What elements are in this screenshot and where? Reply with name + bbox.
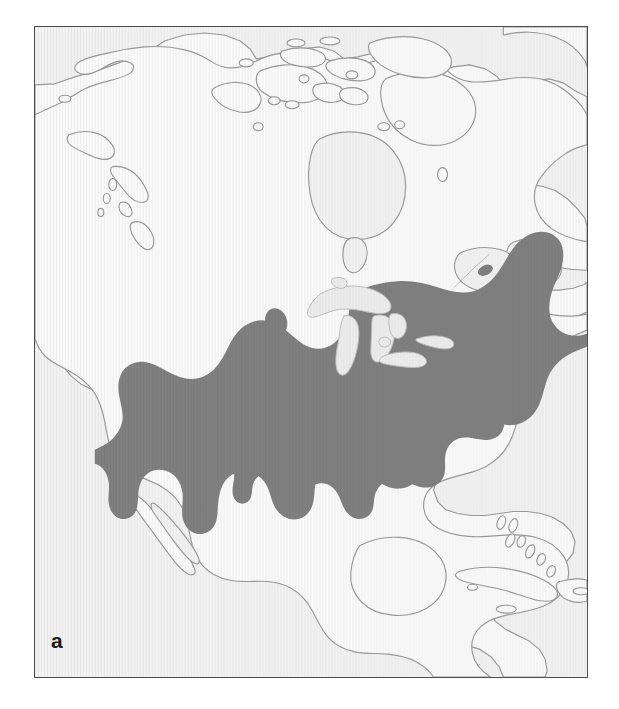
map-frame xyxy=(34,26,588,678)
paper-grain-overlay xyxy=(35,27,587,677)
panel-label: a xyxy=(51,630,63,651)
figure-panel: a xyxy=(0,0,619,709)
north-america-map xyxy=(35,27,587,677)
